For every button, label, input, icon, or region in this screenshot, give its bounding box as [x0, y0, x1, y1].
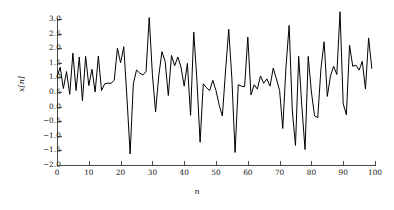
y-tick-label: 1.0	[0, 72, 64, 82]
line-trace	[57, 12, 372, 154]
x-tick-label: 90	[331, 168, 355, 177]
x-axis-spine	[57, 165, 376, 166]
y-tick-label: 1.5	[0, 58, 64, 68]
y-tick-label: 0.0	[0, 102, 64, 112]
x-tick-label: 60	[236, 168, 260, 177]
x-tick-label: 70	[268, 168, 292, 177]
x-tick-label: 80	[299, 168, 323, 177]
chart-figure: x[n] −2.0−1.5−1.0−0.50.00.51.01.52.02.53…	[0, 0, 394, 210]
x-tick-label: 10	[77, 168, 101, 177]
x-tick-label: 40	[172, 168, 196, 177]
y-tick-label: 2.5	[0, 29, 64, 39]
x-tick-label: 100	[363, 168, 387, 177]
y-tick-label: −1.0	[0, 131, 64, 141]
plot-area	[57, 19, 375, 165]
y-tick-label: −0.5	[0, 116, 64, 126]
x-axis-label: n	[0, 187, 394, 196]
y-tick-label: 2.0	[0, 43, 64, 53]
x-tick-label: 50	[204, 168, 228, 177]
data-series-x-of-n	[57, 19, 375, 165]
x-tick-mark	[375, 161, 376, 165]
y-tick-mark	[58, 165, 62, 166]
y-tick-label: 3.0	[0, 14, 64, 24]
y-tick-label: 0.5	[0, 87, 64, 97]
y-tick-label: −1.5	[0, 145, 64, 155]
x-tick-label: 30	[140, 168, 164, 177]
x-tick-label: 0	[45, 168, 69, 177]
x-tick-label: 20	[109, 168, 133, 177]
